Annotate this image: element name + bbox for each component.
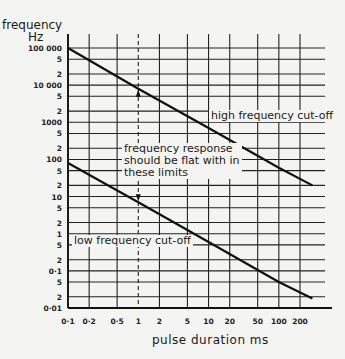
svg-text:5: 5	[185, 317, 190, 326]
svg-text:2: 2	[57, 144, 62, 153]
annotation-low-cutoff: low frequency cut-off	[72, 235, 193, 247]
svg-text:10: 10	[203, 317, 213, 326]
svg-text:5: 5	[57, 241, 62, 250]
svg-text:100: 100	[46, 155, 62, 164]
annotation-flat-response: frequency response should be flat with i…	[122, 143, 242, 179]
svg-text:1: 1	[136, 317, 141, 326]
svg-text:10: 10	[52, 193, 62, 202]
svg-text:2: 2	[57, 293, 62, 302]
x-axis-title: pulse duration ms	[152, 333, 269, 347]
svg-text:50: 50	[252, 317, 262, 326]
annotation-flat-line3: these limits	[124, 167, 240, 179]
svg-text:1: 1	[57, 230, 62, 239]
svg-text:5: 5	[57, 167, 62, 176]
svg-text:100: 100	[271, 317, 287, 326]
svg-text:2: 2	[57, 181, 62, 190]
svg-text:100 000: 100 000	[28, 44, 62, 53]
svg-text:5: 5	[57, 55, 62, 64]
svg-text:2: 2	[57, 256, 62, 265]
annotation-high-cutoff: high frequency cut-off	[209, 110, 335, 122]
svg-text:1000: 1000	[41, 118, 62, 127]
svg-text:2: 2	[57, 107, 62, 116]
svg-text:0·2: 0·2	[83, 317, 96, 326]
x-tick-labels: 0·10·20·5125102050100200	[61, 317, 307, 326]
svg-text:200: 200	[292, 317, 308, 326]
chart-plot: 100 0005210 000521000521005210521520·152…	[0, 0, 345, 359]
svg-text:2: 2	[57, 219, 62, 228]
svg-text:0·5: 0·5	[110, 317, 123, 326]
svg-text:20: 20	[225, 317, 235, 326]
svg-text:0·01: 0·01	[43, 304, 62, 313]
svg-text:2: 2	[57, 70, 62, 79]
svg-text:0·1: 0·1	[61, 317, 74, 326]
svg-text:5: 5	[57, 204, 62, 213]
svg-text:5: 5	[57, 278, 62, 287]
svg-text:5: 5	[57, 129, 62, 138]
y-tick-labels: 100 0005210 000521000521005210521520·152…	[28, 44, 62, 313]
svg-text:10 000: 10 000	[33, 81, 62, 90]
svg-text:0·1: 0·1	[49, 267, 62, 276]
svg-text:2: 2	[157, 317, 162, 326]
svg-text:5: 5	[57, 92, 62, 101]
